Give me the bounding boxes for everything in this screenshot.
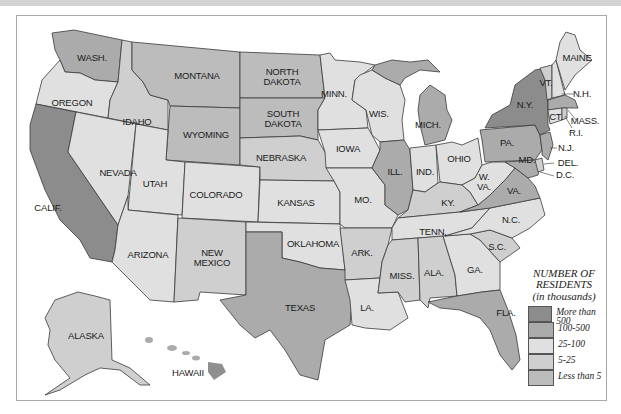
legend-row: 5-25 [528, 354, 608, 370]
legend-swatch [528, 354, 554, 370]
legend-swatch [528, 322, 554, 338]
legend-row: More than 500 [528, 306, 608, 322]
legend-label: Less than 5 [558, 372, 601, 381]
label-nh: N.H. [573, 88, 591, 99]
label-del: DEL. [558, 157, 578, 168]
label-sc: S.C. [488, 241, 506, 252]
label-oklahoma: OKLAHOMA [287, 238, 340, 249]
legend-title: NUMBER OF RESIDENTS [523, 268, 605, 290]
label-montana: MONTANA [174, 70, 220, 81]
label-md: MD. [519, 154, 536, 165]
label-nebraska: NEBRASKA [256, 152, 307, 163]
label-wash: WASH. [77, 52, 107, 63]
label-nc: N.C. [502, 214, 520, 225]
label-texas: TEXAS [285, 302, 315, 313]
legend-swatch [528, 338, 554, 354]
state-florida [428, 290, 520, 370]
label-wva-2: VA. [477, 181, 491, 192]
label-miss: MISS. [390, 270, 415, 281]
label-ill: ILL. [387, 166, 402, 177]
label-arizona: ARIZONA [128, 249, 170, 260]
label-calif: CALIF. [34, 202, 61, 213]
label-ind: IND. [416, 166, 434, 177]
label-mass: MASS. [571, 115, 600, 126]
label-va: VA. [507, 185, 521, 196]
label-kansas: KANSAS [277, 197, 314, 208]
label-wyoming: WYOMING [183, 129, 229, 140]
label-dc: D.C. [556, 169, 574, 180]
label-north-dakota-2: DAKOTA [263, 76, 301, 87]
label-ny: N.Y. [517, 99, 533, 110]
legend-swatch [528, 370, 554, 386]
label-new-mexico-2: MEXICO [194, 257, 230, 268]
label-ri: R.I. [569, 127, 583, 138]
legend-row: Less than 5 [528, 370, 608, 386]
label-utah: UTAH [143, 178, 168, 189]
legend-label: 100-500 [558, 324, 590, 333]
label-nevada: NEVADA [99, 167, 137, 178]
label-hawaii: HAWAII [172, 367, 204, 378]
legend-subtitle: (in thousands) [523, 290, 605, 302]
legend-row: 25-100 [528, 338, 608, 354]
label-mich: MICH. [415, 119, 441, 130]
legend-label: 25-100 [558, 340, 585, 349]
legend-label: 5-25 [558, 356, 575, 365]
label-mo: MO. [354, 194, 371, 205]
label-colorado: COLORADO [190, 189, 243, 200]
label-fla: FLA. [496, 307, 515, 318]
label-tenn: TENN. [419, 226, 447, 237]
label-idaho: IDAHO [122, 116, 151, 127]
label-pa: PA. [500, 137, 514, 148]
label-la: LA. [360, 302, 374, 313]
label-ky: KY. [441, 197, 455, 208]
label-ct: CT. [549, 111, 563, 122]
label-minn: MINN. [321, 88, 347, 99]
label-maine: MAINE [562, 52, 591, 63]
label-ohio: OHIO [447, 153, 470, 164]
label-alaska: ALASKA [68, 330, 105, 341]
legend: NUMBER OF RESIDENTS (in thousands) More … [528, 268, 608, 386]
label-wis: WIS. [369, 108, 389, 119]
label-oregon: OREGON [51, 97, 92, 108]
label-ala: ALA. [424, 267, 444, 278]
label-ga: GA. [467, 264, 483, 275]
label-ark: ARK. [351, 247, 372, 258]
label-vt: VT. [539, 77, 552, 88]
state-new-jersey [540, 132, 553, 160]
label-iowa: IOWA [336, 143, 361, 154]
label-nj: N.J. [558, 142, 574, 153]
legend-swatch [528, 306, 552, 322]
state-alaska [45, 292, 150, 395]
label-south-dakota-2: DAKOTA [264, 118, 302, 129]
